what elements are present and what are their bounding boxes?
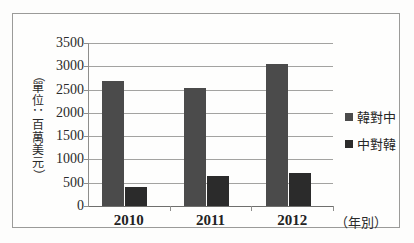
gridline xyxy=(88,90,333,91)
legend-label: 中對韓 xyxy=(357,134,396,153)
chart-figure: （單位：百萬美元） 3500300025002000150010005000 2… xyxy=(0,0,414,243)
y-axis-tick xyxy=(84,136,89,137)
y-axis-tick xyxy=(84,206,89,207)
x-axis-tick-labels: 201020112012 xyxy=(88,210,333,232)
y-axis-tick-label: 0 xyxy=(77,199,84,213)
gridline xyxy=(88,113,333,114)
chart-legend: 韓對中中對韓 xyxy=(345,110,407,164)
gridline xyxy=(88,136,333,137)
bar-2011-series2 xyxy=(207,176,229,206)
legend-swatch-icon xyxy=(345,140,353,148)
gridline xyxy=(88,66,333,67)
gridline xyxy=(88,43,333,44)
y-axis-tick xyxy=(84,159,89,160)
legend-swatch-icon xyxy=(345,113,353,121)
x-axis-title: （年別） xyxy=(335,212,387,231)
plot-area xyxy=(88,43,333,207)
x-axis-tick-label-2010: 2010 xyxy=(88,212,170,229)
y-axis-tick-label: 2500 xyxy=(56,83,84,97)
legend-label: 韓對中 xyxy=(357,107,396,126)
chart-frame: （單位：百萬美元） 3500300025002000150010005000 2… xyxy=(12,13,400,228)
y-axis-tick-label: 500 xyxy=(63,176,84,190)
x-axis-tick-label-2011: 2011 xyxy=(170,212,252,229)
x-axis-tick-label-2012: 2012 xyxy=(251,212,333,229)
y-axis-tick xyxy=(84,113,89,114)
y-axis-tick-label: 2000 xyxy=(56,106,84,120)
legend-item-2[interactable]: 中對韓 xyxy=(345,137,407,150)
x-axis-tick xyxy=(333,206,334,211)
bar-2010-series2 xyxy=(125,187,147,206)
y-axis-tick-label: 1000 xyxy=(56,152,84,166)
legend-item-1[interactable]: 韓對中 xyxy=(345,110,407,123)
gridline xyxy=(88,159,333,160)
y-axis-tick-labels: 3500300025002000150010005000 xyxy=(43,43,84,207)
y-axis-tick xyxy=(84,66,89,67)
y-axis-tick-label: 3000 xyxy=(56,59,84,73)
y-axis-tick-label: 1500 xyxy=(56,129,84,143)
y-axis-tick xyxy=(84,90,89,91)
bar-2012-series2 xyxy=(289,173,311,206)
bar-2010-series1 xyxy=(102,81,124,206)
y-axis-tick-label: 3500 xyxy=(56,36,84,50)
x-axis-line xyxy=(88,206,333,207)
y-axis-tick xyxy=(84,183,89,184)
bar-2012-series1 xyxy=(266,64,288,206)
bar-2011-series1 xyxy=(184,88,206,206)
y-axis-tick xyxy=(84,43,89,44)
